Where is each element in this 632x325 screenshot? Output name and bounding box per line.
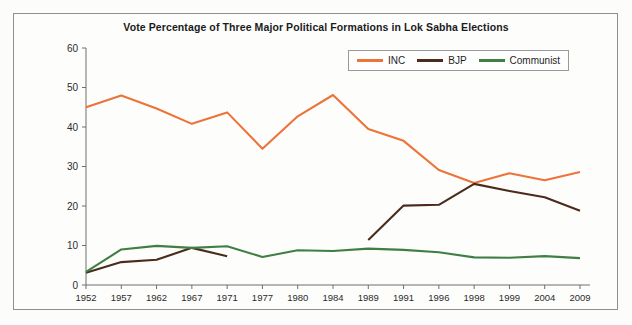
y-tick-label: 20 <box>67 201 79 212</box>
x-tick-label: 1967 <box>181 292 202 303</box>
series-line-bjp <box>368 184 580 240</box>
y-axis: 0102030405060 <box>67 43 86 291</box>
x-tick-label: 1998 <box>464 292 485 303</box>
line-swatch-icon <box>357 59 383 61</box>
line-swatch-icon <box>479 59 505 61</box>
legend-item-bjp[interactable]: BJP <box>417 55 466 66</box>
x-tick-label: 1996 <box>428 292 449 303</box>
line-swatch-icon <box>417 59 443 61</box>
series-line-bjp <box>86 248 227 273</box>
y-tick-label: 50 <box>67 82 79 93</box>
chart-figure: Vote Percentage of Three Major Political… <box>0 0 632 325</box>
x-tick-label: 1962 <box>146 292 167 303</box>
legend-item-label: BJP <box>448 55 466 66</box>
x-axis: 1952195719621967197119771980198419891991… <box>75 285 590 303</box>
legend-item-label: Communist <box>510 55 561 66</box>
x-tick-label: 1971 <box>217 292 238 303</box>
plot-area: 0102030405060 19521957196219671971197719… <box>0 0 632 325</box>
x-tick-label: 1984 <box>322 292 343 303</box>
x-tick-label: 1991 <box>393 292 414 303</box>
y-tick-label: 60 <box>67 43 79 54</box>
x-tick-label: 1999 <box>499 292 520 303</box>
x-tick-label: 1977 <box>252 292 273 303</box>
x-tick-label: 1952 <box>75 292 96 303</box>
legend-item-label: INC <box>388 55 405 66</box>
y-tick-label: 40 <box>67 122 79 133</box>
legend-item-communist[interactable]: Communist <box>479 55 561 66</box>
x-tick-label: 1989 <box>358 292 379 303</box>
chart-legend: INCBJPCommunist <box>348 50 569 71</box>
y-tick-label: 0 <box>72 280 78 291</box>
x-tick-label: 2004 <box>534 292 555 303</box>
x-tick-label: 2009 <box>569 292 590 303</box>
y-tick-label: 30 <box>67 161 79 172</box>
y-tick-label: 10 <box>67 240 79 251</box>
series-line-inc <box>86 95 580 183</box>
x-tick-label: 1980 <box>287 292 308 303</box>
x-tick-label: 1957 <box>111 292 132 303</box>
series-lines <box>86 95 580 273</box>
legend-item-inc[interactable]: INC <box>357 55 405 66</box>
